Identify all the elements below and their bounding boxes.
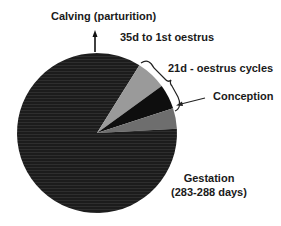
conception-label: Conception [213,90,274,102]
gestation-label: Gestation (283-288 days) [168,172,250,198]
pie-chart [17,53,177,213]
gestation-title: Gestation [168,172,250,184]
calving-arrow-icon [93,30,98,52]
oestrus-cycles-label: 21d - oestrus cycles [168,62,273,74]
gestation-days: (283-288 days) [168,186,250,198]
conception-arrow-icon [176,98,205,106]
first-oestrus-label: 35d to 1st oestrus [120,31,214,43]
calving-label: Calving (parturition) [51,10,156,22]
